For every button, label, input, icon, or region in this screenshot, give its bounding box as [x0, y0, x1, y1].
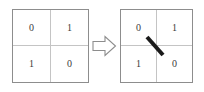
- transformation-figure: 0 1 1 0 0 1 1 0: [0, 0, 204, 92]
- grid-cell: 1: [121, 46, 156, 82]
- grid-cell: 0: [13, 10, 50, 45]
- arrow-right-icon: [92, 34, 117, 58]
- grid-cell: 1: [13, 46, 50, 82]
- source-grid: 0 1 1 0: [12, 9, 89, 83]
- result-grid: 0 1 1 0: [120, 9, 193, 83]
- grid-cell: 1: [157, 10, 192, 45]
- transform-arrow: [92, 34, 117, 58]
- grid-cell: 0: [157, 46, 192, 82]
- grid-cell: 0: [51, 46, 88, 82]
- grid-cell: 0: [121, 10, 156, 45]
- grid-cell: 1: [51, 10, 88, 45]
